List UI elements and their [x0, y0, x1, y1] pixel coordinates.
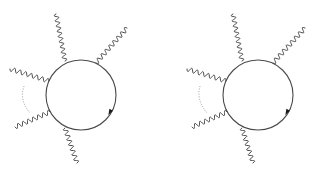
- fermion-loop: [46, 60, 116, 130]
- photon-bottom: [63, 128, 78, 163]
- photon-lines: [10, 14, 127, 163]
- photon-lower-left: [192, 111, 227, 129]
- photon-upper-right: [273, 27, 305, 63]
- photon-top: [54, 14, 67, 61]
- fermion-loop: [223, 60, 293, 130]
- photon-upper-right: [96, 27, 127, 63]
- left-diagram: [10, 14, 127, 163]
- photon-lower-left: [15, 111, 50, 129]
- photon-upper-left: [10, 68, 49, 82]
- feynman-diagram-figure: [0, 0, 316, 174]
- photon-bottom: [240, 128, 254, 163]
- dotted-arc: [199, 86, 207, 113]
- right-diagram: [187, 14, 305, 163]
- photon-top: [231, 14, 244, 61]
- photon-lines: [187, 14, 305, 163]
- dotted-arc: [22, 86, 30, 113]
- photon-upper-left: [187, 68, 226, 82]
